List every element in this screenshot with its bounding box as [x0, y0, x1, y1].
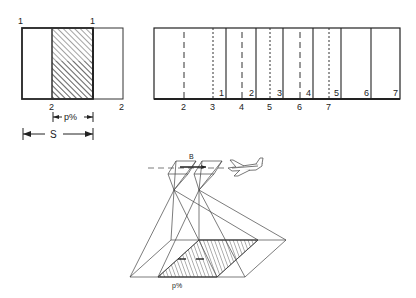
photogrammetry-overlap-diagram: 1 1 2 2 p% S	[0, 0, 416, 298]
strip-inner-2: 2	[249, 88, 254, 98]
overlap-label: p%	[64, 112, 77, 122]
strip-inner-5: 5	[334, 88, 339, 98]
strip-panel: 2 3 4 5 6 7 1 2 3 4 5 6 7	[154, 28, 400, 112]
strip-label-4: 4	[239, 102, 244, 112]
spacing-dimension: S	[23, 128, 93, 140]
strip-inner-6: 6	[364, 88, 369, 98]
strip-inner-7: 7	[393, 88, 398, 98]
label-1-right: 1	[90, 16, 95, 26]
overlap-dimension: p%	[53, 112, 93, 122]
overlap-region	[52, 28, 93, 99]
strip-label-7: 7	[326, 102, 331, 112]
label-1-left: 1	[18, 16, 23, 26]
strip-inner-1: 1	[219, 88, 224, 98]
airplane-icon	[228, 158, 263, 176]
aircraft-panel: B p%	[130, 153, 286, 290]
strip-label-3: 3	[210, 102, 215, 112]
label-2-left: 2	[49, 102, 54, 112]
base-label: B	[189, 153, 194, 160]
spacing-label: S	[50, 129, 57, 140]
strip-label-5: 5	[267, 102, 272, 112]
single-overlap-panel: 1 1 2 2 p% S	[18, 16, 124, 140]
strip-inner-3: 3	[277, 88, 282, 98]
strip-label-2: 2	[181, 102, 186, 112]
strip-label-6: 6	[297, 102, 302, 112]
label-2-right: 2	[119, 102, 124, 112]
ground-overlap-label: p%	[172, 282, 182, 290]
strip-inner-4: 4	[306, 88, 311, 98]
